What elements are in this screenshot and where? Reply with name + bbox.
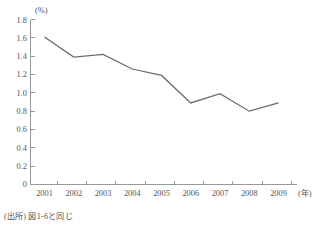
x-tick-label-2008: 2008 (241, 189, 258, 198)
x-tick-label-2005: 2005 (153, 189, 170, 198)
y-tick-label: 1.0 (17, 89, 27, 98)
data-series-line (45, 37, 279, 111)
figure-container: 1.8 1.6 1.4 1.2 1.0 0.8 0.6 0.4 0.2 0 (%… (0, 0, 320, 231)
y-tick-label: 1.4 (17, 52, 28, 61)
y-tick-label: 0.2 (17, 162, 27, 171)
y-tick-label: 1.2 (17, 70, 27, 79)
y-axis-unit-label: (%) (35, 6, 48, 15)
line-chart: 1.8 1.6 1.4 1.2 1.0 0.8 0.6 0.4 0.2 0 (%… (0, 0, 320, 205)
x-tick-label-2002: 2002 (65, 189, 82, 198)
y-tick-label: 0.4 (17, 144, 28, 153)
x-tick-label-2004: 2004 (124, 189, 142, 198)
x-tick-labels: 2001 2002 2003 2004 2005 2006 2007 2008 … (36, 189, 287, 198)
y-tick-label: 0.6 (17, 125, 27, 134)
x-tick-label-2007: 2007 (212, 189, 229, 198)
x-axis-unit-label: (年) (298, 188, 312, 198)
y-tick-marks (31, 20, 35, 167)
x-tick-label-2001: 2001 (36, 189, 53, 198)
y-tick-label: 1.6 (17, 34, 27, 43)
x-tick-marks (57, 181, 291, 185)
y-tick-label: 0.8 (17, 107, 27, 116)
chart-area: 1.8 1.6 1.4 1.2 1.0 0.8 0.6 0.4 0.2 0 (%… (0, 0, 320, 205)
source-note: (出所) 図1-6と同じ (4, 209, 73, 221)
y-tick-label: 1.8 (17, 16, 27, 25)
x-tick-label-2006: 2006 (182, 189, 199, 198)
x-tick-label-2009: 2009 (270, 189, 287, 198)
y-tick-label: 0 (23, 180, 27, 189)
y-tick-labels: 1.8 1.6 1.4 1.2 1.0 0.8 0.6 0.4 0.2 0 (17, 16, 28, 190)
x-tick-label-2003: 2003 (95, 189, 112, 198)
